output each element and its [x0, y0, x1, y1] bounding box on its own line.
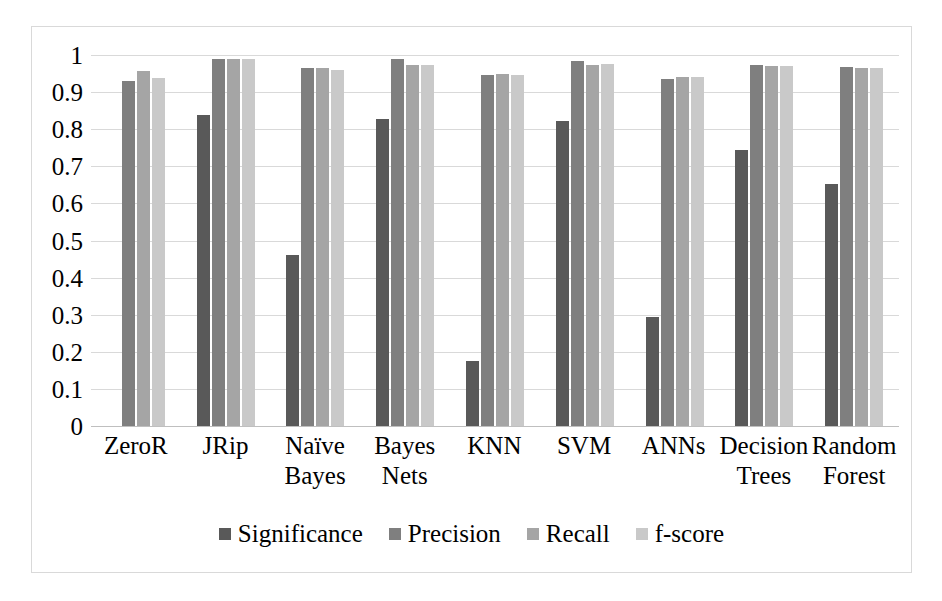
x-axis-label-line1: Bayes	[374, 432, 435, 459]
x-axis-label-line1: ANNs	[642, 432, 706, 459]
legend-swatch-icon	[389, 528, 401, 540]
bar[interactable]	[556, 121, 569, 426]
y-axis-tick-label: 0.2	[52, 339, 83, 364]
bar[interactable]	[376, 119, 389, 426]
legend-swatch-icon	[527, 528, 539, 540]
bar[interactable]	[212, 59, 225, 426]
bar[interactable]	[646, 317, 659, 426]
bar-group	[630, 55, 720, 426]
x-axis-category-label: ANNs	[629, 431, 719, 490]
legend-label: Precision	[408, 521, 501, 546]
x-axis-category-label: KNN	[450, 431, 540, 490]
legend-item[interactable]: Significance	[219, 521, 363, 546]
bar[interactable]	[511, 75, 524, 426]
bar-group	[271, 55, 361, 426]
y-axis-tick-label: 1	[71, 43, 84, 68]
bar[interactable]	[122, 81, 135, 426]
bar[interactable]	[197, 115, 210, 426]
bar[interactable]	[601, 64, 614, 426]
legend-swatch-icon	[219, 528, 231, 540]
legend-item[interactable]: Precision	[389, 521, 501, 546]
bar[interactable]	[466, 361, 479, 426]
bar[interactable]	[391, 59, 404, 426]
x-axis-category-label: SVM	[539, 431, 629, 490]
bar[interactable]	[750, 65, 763, 426]
x-axis-label-line2: Trees	[719, 461, 808, 491]
bar[interactable]	[406, 65, 419, 426]
x-axis-category-label: JRip	[181, 431, 271, 490]
x-axis-category-label: ZeroR	[91, 431, 181, 490]
bar[interactable]	[571, 61, 584, 426]
x-axis-label-line1: KNN	[467, 432, 521, 459]
x-axis: ZeroRJRipNaïveBayesBayesNetsKNNSVMANNsDe…	[91, 431, 899, 490]
bar[interactable]	[286, 255, 299, 426]
chart-legend: SignificancePrecisionRecallf-score	[32, 521, 911, 546]
chart-frame: 00.10.20.30.40.50.60.70.80.91 ZeroRJRipN…	[31, 26, 912, 573]
bar[interactable]	[870, 68, 883, 426]
x-axis-label-line1: SVM	[557, 432, 611, 459]
x-axis-label-line1: Random	[812, 432, 897, 459]
bar-group	[809, 55, 899, 426]
y-axis-tick-label: 0	[71, 414, 84, 439]
bar[interactable]	[825, 184, 838, 426]
y-axis-tick-label: 0.5	[52, 228, 83, 253]
x-axis-label-line2: Bayes	[271, 461, 359, 491]
legend-item[interactable]: f-score	[636, 521, 724, 546]
bar-group	[181, 55, 271, 426]
x-axis-label-line1: Decision	[719, 432, 808, 459]
bar-group	[91, 55, 181, 426]
y-axis-tick-label: 0.6	[52, 191, 83, 216]
y-axis: 00.10.20.30.40.50.60.70.80.91	[32, 55, 87, 426]
y-axis-tick-label: 0.1	[52, 376, 83, 401]
y-axis-tick-label: 0.4	[52, 265, 83, 290]
x-axis-category-label: BayesNets	[360, 431, 450, 490]
legend-item[interactable]: Recall	[527, 521, 610, 546]
bar-group	[719, 55, 809, 426]
x-axis-category-label: RandomForest	[809, 431, 899, 490]
bar[interactable]	[691, 77, 704, 426]
x-axis-label-line2: Nets	[361, 461, 449, 491]
bar[interactable]	[331, 70, 344, 426]
bar-group	[360, 55, 450, 426]
y-axis-tick-label: 0.9	[52, 80, 83, 105]
bar[interactable]	[586, 65, 599, 426]
legend-label: Recall	[546, 521, 610, 546]
bar[interactable]	[481, 75, 494, 426]
bar[interactable]	[152, 78, 165, 426]
bar[interactable]	[661, 79, 674, 426]
x-axis-label-line1: Naïve	[285, 432, 345, 459]
bar-groups	[91, 55, 899, 426]
bar[interactable]	[301, 68, 314, 426]
bar[interactable]	[242, 59, 255, 426]
bar[interactable]	[780, 66, 793, 426]
x-axis-category-label: NaïveBayes	[270, 431, 360, 490]
y-axis-tick-label: 0.7	[52, 154, 83, 179]
bar[interactable]	[855, 68, 868, 426]
x-axis-category-label: DecisionTrees	[718, 431, 809, 490]
bar[interactable]	[840, 67, 853, 426]
legend-label: f-score	[655, 521, 724, 546]
gridline	[91, 426, 899, 427]
legend-label: Significance	[238, 521, 363, 546]
bar-group	[450, 55, 540, 426]
x-axis-label-line1: ZeroR	[104, 432, 168, 459]
bar[interactable]	[735, 150, 748, 426]
bar-group	[540, 55, 630, 426]
x-axis-label-line1: JRip	[203, 432, 249, 459]
x-axis-label-line2: Forest	[810, 461, 898, 491]
bar[interactable]	[496, 74, 509, 426]
bar[interactable]	[421, 65, 434, 426]
y-axis-tick-label: 0.3	[52, 302, 83, 327]
y-axis-tick-label: 0.8	[52, 117, 83, 142]
legend-swatch-icon	[636, 528, 648, 540]
bar[interactable]	[765, 66, 778, 426]
bar[interactable]	[316, 68, 329, 426]
bar[interactable]	[227, 59, 240, 426]
bar[interactable]	[676, 77, 689, 426]
bar[interactable]	[137, 71, 150, 426]
